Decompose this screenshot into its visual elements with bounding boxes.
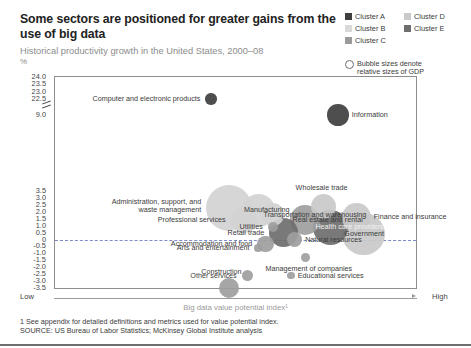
- data-bubble[interactable]: [254, 244, 262, 252]
- data-point-label: Finance and insurance: [374, 213, 447, 221]
- data-point-label: Wholesale trade: [296, 184, 348, 192]
- data-point-label: Natural resources: [305, 236, 362, 244]
- data-bubble[interactable]: [242, 270, 253, 281]
- data-bubble[interactable]: [268, 222, 278, 232]
- legend-item-cluster-e: Cluster E: [404, 24, 444, 33]
- legend-item-cluster-a: Cluster A: [345, 12, 385, 21]
- legend-label-cluster-b: Cluster B: [355, 24, 385, 33]
- y-axis-break-mark: [42, 104, 51, 108]
- legend-swatch-cluster-b: [345, 25, 352, 32]
- footnote: 1 See appendix for detailed definitions …: [20, 317, 450, 326]
- footer: 1 See appendix for detailed definitions …: [20, 317, 450, 336]
- data-point-label: Professional services: [158, 216, 226, 224]
- y-axis-tick-label: -3.5: [33, 283, 46, 292]
- data-point-label: Arts and entertainment: [177, 244, 250, 252]
- legend-item-cluster-c: Cluster C: [345, 36, 386, 45]
- legend-item-cluster-b: Cluster B: [345, 24, 385, 33]
- data-point-label: Educational services: [298, 272, 364, 280]
- x-axis-title: Big data value potential index¹: [0, 303, 471, 312]
- x-axis-low-label: Low: [20, 292, 34, 301]
- legend-label-cluster-c: Cluster C: [355, 36, 386, 45]
- legend-swatch-cluster-e: [404, 25, 411, 32]
- legend-swatch-cluster-d: [404, 13, 411, 20]
- y-axis-tick-label: 22.5: [32, 94, 46, 103]
- legend-label-cluster-e: Cluster E: [414, 24, 444, 33]
- y-axis: 24.023.523.022.59.03.53.02.52.01.51.00.5…: [0, 76, 54, 289]
- chart-subtitle: Historical productivity growth in the Un…: [20, 46, 350, 57]
- x-axis-line: [54, 298, 417, 299]
- circle-outline-icon: [345, 60, 354, 69]
- plot-area: Computer and electronic productsInformat…: [54, 76, 417, 289]
- data-point-label: Administration, support, and waste manag…: [106, 198, 201, 215]
- legend-label-cluster-d: Cluster D: [414, 12, 445, 21]
- bottom-rule: [0, 344, 471, 346]
- data-bubble[interactable]: [301, 253, 310, 262]
- legend-swatch-cluster-a: [345, 13, 352, 20]
- data-bubble[interactable]: [205, 93, 216, 104]
- data-bubble[interactable]: [287, 232, 302, 247]
- legend-item-cluster-d: Cluster D: [404, 12, 445, 21]
- legend-swatch-cluster-c: [345, 37, 352, 44]
- x-axis-arrow-icon: [412, 294, 416, 298]
- data-point-label: Construction: [201, 268, 241, 276]
- data-bubble[interactable]: [219, 278, 239, 298]
- source-line: SOURCE: US Bureau of Labor Statistics; M…: [20, 326, 450, 335]
- page-title: Some sectors are positioned for greater …: [20, 12, 340, 42]
- data-point-label: Computer and electronic products: [93, 95, 201, 103]
- y-axis-unit-label: %: [20, 57, 27, 66]
- data-point-label: Information: [352, 111, 388, 119]
- x-axis-high-label: High: [432, 292, 448, 301]
- legend-bubble-note: Bubble sizes denote relative sizes of GD…: [345, 60, 424, 76]
- data-point-label: Retail trade: [228, 229, 265, 237]
- y-axis-tick-label: 9.0: [36, 110, 46, 119]
- legend-label-cluster-a: Cluster A: [355, 12, 385, 21]
- data-bubble[interactable]: [327, 104, 348, 125]
- chart-page: Some sectors are positioned for greater …: [0, 0, 471, 348]
